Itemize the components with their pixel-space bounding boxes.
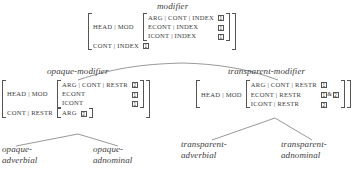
tag-box: 1 [321, 82, 327, 88]
tag-box: 2 [333, 92, 339, 98]
leaf-label-transparent-adverbial: transparent- adverbial [181, 139, 227, 160]
tag-box: 1 [218, 34, 224, 40]
bracket-right [226, 13, 230, 41]
tag-value: 1 [319, 80, 341, 89]
attr-path: ECONT | RESTR [250, 89, 319, 99]
tag-value: 1 [141, 41, 232, 50]
tag-value: 2 [79, 108, 89, 117]
edge-transparent-to-adnominal [275, 118, 312, 140]
avm-transparent-modifier: HEAD | MOD ARG | CONT | RESTR 1 [196, 80, 351, 108]
tag-box: 2 [81, 111, 87, 117]
leaf-label-transparent-adnominal: transparent- adnominal [281, 139, 327, 160]
nested-avm: ARG | CONT | RESTR 1 ECONT | RESTR 1&2 [244, 80, 347, 108]
bracket-right [146, 80, 150, 118]
avm-opaque-modifier: HEAD | MOD ARG | CONT | RESTR 2 [2, 80, 150, 118]
leaf-line-1: opaque- [2, 144, 37, 155]
leaf-line-1: transparent- [281, 139, 327, 150]
attr-path: HEAD | MOD [6, 80, 55, 108]
bracket-right [347, 80, 351, 108]
tag-value: 1 [216, 13, 226, 22]
attr-path: HEAD | MOD [92, 13, 141, 41]
leaf-line-2: adverbial [2, 155, 37, 166]
leaf-label-opaque-adnominal: opaque- adnominal [93, 144, 132, 165]
leaf-label-opaque-adverbial: opaque- adverbial [2, 144, 37, 165]
tag-box: 1 [132, 101, 138, 107]
nested-avm: ARG | CONT | INDEX 1 ECONT | INDEX 1 [141, 13, 232, 41]
attr-path: CONT | INDEX [92, 41, 141, 50]
tag-value: 1 [216, 31, 226, 40]
bracket-right [341, 80, 345, 108]
tag-value: 2 [319, 99, 341, 108]
attr-path: ARG | CONT | RESTR [61, 80, 130, 89]
nested-avm: ARG 2 [55, 108, 146, 118]
tag-box: 2 [132, 82, 138, 88]
tag-box: 1 [143, 43, 149, 49]
attr-path: ARG [61, 108, 79, 117]
avm-row: ARG | CONT | RESTR 2 [61, 80, 140, 89]
avm-row: HEAD | MOD ARG | CONT | RESTR 2 [6, 80, 146, 108]
tag-value: 1 [130, 89, 140, 98]
node-label-modifier: modifier [157, 1, 188, 11]
avm-modifier: HEAD | MOD ARG | CONT | INDEX 1 [88, 13, 236, 50]
avm-row: HEAD | MOD ARG | CONT | INDEX 1 [92, 13, 232, 41]
attr-path: ARG | CONT | INDEX [147, 13, 216, 22]
tag-box: 1 [321, 92, 327, 98]
avm-row: ARG | CONT | RESTR 1 [250, 80, 341, 89]
avm-row: ECONT | RESTR 1&2 [250, 89, 341, 99]
attr-path: ECONT [61, 89, 130, 98]
attr-path: HEAD | MOD [200, 80, 244, 108]
tag-value-pair: 1&2 [319, 89, 341, 99]
node-label-opaque-modifier: opaque-modifier [47, 66, 109, 76]
tag-box: 1 [218, 15, 224, 21]
avm-row: ARG | CONT | INDEX 1 [147, 13, 226, 22]
leaf-line-1: opaque- [93, 144, 132, 155]
bracket-right [232, 13, 236, 50]
node-label-transparent-modifier: transparent-modifier [228, 66, 305, 76]
leaf-line-2: adnominal [281, 150, 327, 161]
nested-avm: ARG | CONT | RESTR 2 ECONT 1 [55, 80, 146, 108]
avm-row: HEAD | MOD ARG | CONT | RESTR 1 [200, 80, 347, 108]
tag-value: 1 [216, 22, 226, 31]
edge-transparent-to-adverbial [212, 118, 275, 140]
attr-path: CONT | RESTR [6, 108, 55, 118]
avm-row: ARG 2 [61, 108, 89, 117]
leaf-line-2: adverbial [181, 150, 227, 161]
bracket-right [140, 80, 144, 108]
avm-row: ICONT | RESTR 2 [250, 99, 341, 108]
attr-path: ARG | CONT | RESTR [250, 80, 319, 89]
avm-row: ICONT 1 [61, 98, 140, 107]
bracket-right [89, 108, 93, 117]
avm-row: ECONT | INDEX 1 [147, 22, 226, 31]
avm-row: ECONT 1 [61, 89, 140, 98]
avm-row: CONT | INDEX 1 [92, 41, 232, 50]
tag-box: 1 [132, 92, 138, 98]
attr-path: ICONT | RESTR [250, 99, 319, 108]
avm-row: CONT | RESTR ARG 2 [6, 108, 146, 118]
attr-path: ICONT [61, 98, 130, 107]
tag-box: 1 [218, 25, 224, 31]
leaf-line-2: adnominal [93, 155, 132, 166]
leaf-line-1: transparent- [181, 139, 227, 150]
tag-value: 2 [130, 80, 140, 89]
tag-value: 1 [130, 98, 140, 107]
avm-row: ICONT | INDEX 1 [147, 31, 226, 40]
attr-path: ECONT | INDEX [147, 22, 216, 31]
tag-box: 2 [321, 102, 327, 108]
attr-path: ICONT | INDEX [147, 31, 216, 40]
figure-canvas: modifier HEAD | MOD ARG | CONT | INDEX [0, 0, 356, 170]
